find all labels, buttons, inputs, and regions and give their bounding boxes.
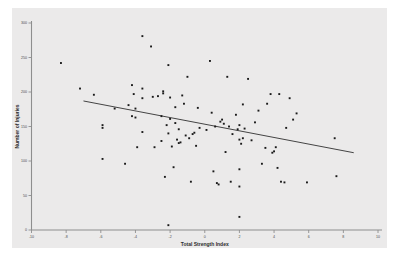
y-tick-label: 250 — [21, 56, 27, 60]
data-point — [238, 216, 240, 218]
data-point — [135, 117, 137, 119]
data-point — [171, 146, 173, 148]
data-point — [79, 88, 81, 90]
data-point — [283, 181, 285, 183]
data-point — [225, 151, 227, 153]
regression-fit-line — [83, 101, 353, 153]
x-tick-label: -8 — [65, 235, 68, 239]
data-point — [162, 90, 164, 92]
data-point — [160, 115, 162, 117]
x-tick-label: -6 — [99, 235, 102, 239]
data-point — [181, 95, 183, 97]
data-point — [289, 97, 291, 99]
data-point — [162, 92, 164, 94]
x-tick-label: 2 — [238, 235, 240, 239]
data-point — [211, 112, 213, 114]
data-point — [334, 137, 336, 139]
y-tick-label: 300 — [21, 21, 27, 25]
y-tick-label: 150 — [21, 125, 27, 129]
data-point — [102, 127, 104, 129]
data-point — [178, 142, 180, 144]
data-point — [230, 181, 232, 183]
data-point — [209, 60, 211, 62]
y-tick-label: 200 — [21, 90, 27, 94]
data-point — [141, 97, 143, 99]
data-point — [114, 108, 116, 110]
data-point — [275, 146, 277, 148]
data-point — [141, 131, 143, 133]
data-point — [280, 181, 282, 183]
data-point — [141, 35, 143, 37]
x-tick-label: 4 — [273, 235, 275, 239]
data-point — [185, 135, 187, 137]
data-point — [216, 182, 218, 184]
data-point — [135, 108, 137, 110]
data-point — [174, 106, 176, 108]
data-point — [212, 170, 214, 172]
data-point — [160, 140, 162, 142]
data-point — [335, 175, 337, 177]
x-tick-label: 6 — [308, 235, 310, 239]
data-point — [242, 137, 244, 139]
x-tick-label: -2 — [168, 235, 171, 239]
data-point — [188, 137, 190, 139]
x-axis-ticks: -10-8-6-4-20246810 — [29, 230, 380, 239]
data-point — [169, 118, 171, 120]
data-point — [152, 96, 154, 98]
data-point — [238, 186, 240, 188]
data-point — [193, 132, 195, 134]
data-point — [199, 127, 201, 129]
plot-area: 050100150200250300 -10-8-6-4-20246810 To… — [0, 0, 400, 263]
data-point — [238, 139, 240, 141]
data-point — [124, 163, 126, 165]
data-point — [60, 62, 62, 64]
data-point — [186, 76, 188, 78]
data-point — [192, 133, 194, 135]
data-point — [218, 184, 220, 186]
data-point — [128, 104, 130, 106]
y-tick-label: 100 — [21, 159, 27, 163]
data-point — [102, 158, 104, 160]
data-point — [223, 123, 225, 125]
data-point — [277, 167, 279, 169]
data-point — [102, 124, 104, 126]
x-tick-label: 10 — [376, 235, 380, 239]
data-point — [261, 163, 263, 165]
data-point — [238, 124, 240, 126]
data-point — [173, 166, 175, 168]
data-point — [221, 119, 223, 121]
x-tick-label: -4 — [134, 235, 137, 239]
y-tick-label: 0 — [25, 228, 27, 232]
data-point — [133, 93, 135, 95]
data-point — [232, 133, 234, 135]
data-point — [254, 121, 256, 123]
x-tick-label: 8 — [342, 235, 344, 239]
data-point — [157, 95, 159, 97]
data-point — [206, 129, 208, 131]
data-point — [150, 46, 152, 48]
data-point — [226, 76, 228, 78]
data-point — [183, 103, 185, 105]
data-point — [271, 152, 273, 154]
data-point — [244, 128, 246, 130]
data-point — [178, 128, 180, 130]
y-tick-label: 50 — [23, 194, 27, 198]
data-point — [235, 114, 237, 116]
data-point — [247, 78, 249, 80]
data-point — [237, 128, 239, 130]
x-tick-label: 0 — [204, 235, 206, 239]
data-point — [190, 181, 192, 183]
data-point — [154, 146, 156, 148]
data-point — [167, 224, 169, 226]
data-points — [60, 35, 337, 226]
data-point — [197, 107, 199, 109]
data-point — [273, 150, 275, 152]
data-point — [228, 126, 230, 128]
scatter-plot-figure: 050100150200250300 -10-8-6-4-20246810 To… — [0, 0, 400, 263]
data-point — [292, 119, 294, 121]
data-point — [238, 168, 240, 170]
data-point — [285, 127, 287, 129]
data-point — [174, 122, 176, 124]
data-point — [266, 103, 268, 105]
data-point — [264, 147, 266, 149]
